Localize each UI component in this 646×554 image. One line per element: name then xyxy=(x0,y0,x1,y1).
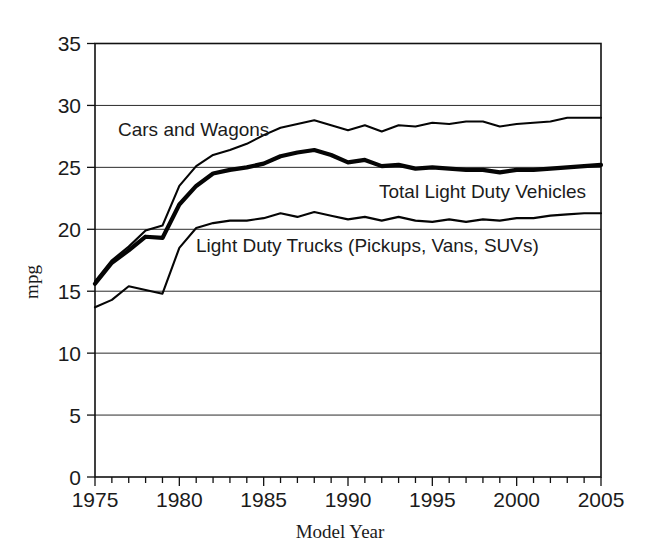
x-tick-label-1975: 1975 xyxy=(72,488,119,511)
y-axis-title: mpg xyxy=(21,265,42,299)
annotation-label-1: Total Light Duty Vehicles xyxy=(379,181,586,202)
y-tick-label-20: 20 xyxy=(58,218,81,241)
y-tick-label-10: 10 xyxy=(58,342,81,365)
y-tick-label-15: 15 xyxy=(58,280,81,303)
x-tick-label-1990: 1990 xyxy=(325,488,372,511)
annotation-label-2: Light Duty Trucks (Pickups, Vans, SUVs) xyxy=(196,235,539,256)
annotation-label-0: Cars and Wagons xyxy=(118,119,269,140)
x-tick-label-2000: 2000 xyxy=(493,488,540,511)
chart-page: 05101520253035 1975198019851990199520002… xyxy=(0,0,646,554)
y-tick-label-30: 30 xyxy=(58,94,81,117)
y-tick-label-25: 25 xyxy=(58,156,81,179)
x-tick-label-2005: 2005 xyxy=(578,488,625,511)
chart-background xyxy=(0,0,646,554)
x-axis-title: Model Year xyxy=(296,521,385,542)
y-tick-label-0: 0 xyxy=(69,466,81,489)
fuel-economy-line-chart: 05101520253035 1975198019851990199520002… xyxy=(0,0,646,554)
x-tick-label-1995: 1995 xyxy=(409,488,456,511)
y-tick-label-5: 5 xyxy=(69,404,81,427)
x-tick-label-1980: 1980 xyxy=(156,488,203,511)
x-tick-label-1985: 1985 xyxy=(240,488,287,511)
y-tick-label-35: 35 xyxy=(58,32,81,55)
